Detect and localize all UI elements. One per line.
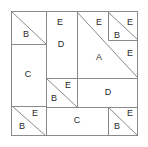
piece-label-p15: C xyxy=(74,115,81,125)
piece-label-p1: E xyxy=(57,17,63,27)
piece-label-p10: E xyxy=(65,80,71,90)
piece-label-p13: E xyxy=(32,108,38,118)
quilt-block-diagram: E B D E E B A E C E B D E B C E B xyxy=(0,0,148,147)
piece-label-p9: C xyxy=(25,69,32,79)
piece-label-p14: B xyxy=(19,121,25,131)
piece-label-p3: D xyxy=(58,39,65,49)
piece-label-p12: D xyxy=(105,87,112,97)
piece-label-p11: B xyxy=(51,93,57,103)
piece-label-p8: E xyxy=(127,48,133,58)
piece-label-p16: E xyxy=(127,108,133,118)
quilt-svg-canvas: E B D E E B A E C E B D E B C E B xyxy=(0,0,148,147)
piece-label-p4: E xyxy=(96,17,102,27)
piece-label-p6: B xyxy=(114,30,120,40)
piece-label-p2: B xyxy=(23,29,29,39)
piece-label-p5: E xyxy=(127,17,133,27)
piece-label-p7: A xyxy=(96,52,102,62)
piece-label-p17: B xyxy=(114,121,120,131)
